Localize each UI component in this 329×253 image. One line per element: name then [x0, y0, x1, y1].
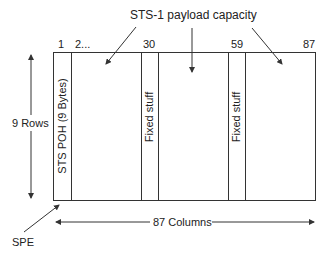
fixed-stuff-label-2: Fixed stuff: [230, 82, 242, 152]
column-number-2: 2...: [75, 38, 90, 50]
fixed-stuff-label-1: Fixed stuff: [143, 82, 155, 152]
rows-label: 9 Rows: [12, 117, 49, 129]
columns-label: 87 Columns: [153, 216, 212, 228]
column-number-30: 30: [143, 38, 155, 50]
column-number-87: 87: [303, 38, 315, 50]
spe-label: SPE: [12, 236, 34, 248]
payload-title: STS-1 payload capacity: [130, 9, 257, 21]
column-number-1: 1: [58, 38, 64, 50]
spe-arrow: [24, 205, 59, 232]
payload-arrow-right: [252, 28, 282, 64]
column-number-59: 59: [231, 38, 243, 50]
poh-label: STS POH (9 Bytes): [56, 71, 68, 181]
payload-arrow-left: [106, 27, 136, 64]
spe-frame: [54, 53, 316, 201]
